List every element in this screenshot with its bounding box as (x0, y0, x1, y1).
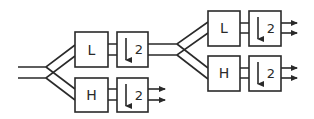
stage2-lowpass-label: L (220, 20, 228, 36)
stage2-low-link (240, 23, 249, 33)
stage2-low-factor: 2 (267, 21, 275, 36)
stage1-high-outputs (148, 89, 165, 100)
stage2-lowpass-filter: L (208, 11, 240, 46)
stage2-highpass-label: H (219, 65, 230, 81)
stage1-low-downsampler: 2 (117, 32, 148, 67)
stage2-high-link (240, 68, 249, 78)
stage2-high-downsampler: 2 (249, 56, 281, 91)
stage1-highpass-filter: H (75, 78, 108, 112)
stage1-high-downsampler: 2 (117, 78, 148, 112)
input-signal (18, 45, 75, 100)
stage1-lowpass-label: L (88, 42, 96, 58)
stage2-input (148, 22, 208, 79)
stage1-lowpass-filter: L (75, 32, 108, 67)
stage1-low-factor: 2 (135, 42, 143, 57)
stage2-high-factor: 2 (267, 66, 275, 81)
stage1-high-link (108, 89, 117, 100)
stage2-high-outputs (281, 68, 297, 78)
stage1-highpass-label: H (86, 87, 97, 103)
stage1-high-factor: 2 (135, 88, 143, 103)
stage2-low-outputs (281, 23, 297, 33)
stage2-low-downsampler: 2 (249, 11, 281, 46)
filter-bank-diagram: L 2 H 2 L 2 (0, 0, 314, 119)
stage1-low-link (108, 44, 117, 55)
stage2-highpass-filter: H (208, 56, 240, 91)
